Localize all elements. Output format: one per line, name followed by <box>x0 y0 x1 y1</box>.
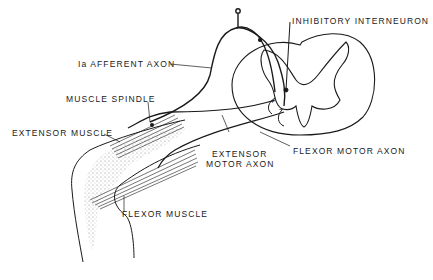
label-ia-afferent-axon: Ia AFFERENT AXON <box>78 59 175 69</box>
spinal-cord-section <box>232 34 375 135</box>
excitatory-sign: + <box>270 97 275 106</box>
label-extensor-muscle: EXTENSOR MUSCLE <box>12 128 113 138</box>
leader-lines <box>104 64 290 212</box>
muscle-spindle-icon <box>150 123 154 127</box>
label-flexor-muscle: FLEXOR MUSCLE <box>122 209 208 219</box>
label-inhibitory-interneuron: INHIBITORY INTERNEURON <box>292 16 429 26</box>
label-flexor-motor-axon: FLEXOR MOTOR AXON <box>293 146 406 156</box>
diagram-drawing: + − <box>0 0 433 280</box>
inhibitory-sign: − <box>279 105 284 114</box>
label-extensor-motor-axon-2: MOTOR AXON <box>206 159 274 169</box>
label-extensor-motor-axon-1: EXTENSOR <box>212 149 268 159</box>
stretch-reflex-diagram: + − INHIBITORY INTERNEURON Ia AFFERENT A… <box>0 0 433 280</box>
label-muscle-spindle: MUSCLE SPINDLE <box>66 94 156 104</box>
